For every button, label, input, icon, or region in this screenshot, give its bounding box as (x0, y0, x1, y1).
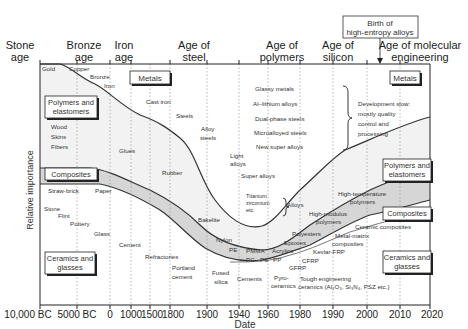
tick-1990: 1990 (322, 309, 345, 320)
tick-1960: 1960 (257, 309, 280, 320)
class-box-metals-right: Metals (390, 71, 422, 86)
label-flint: Flint (58, 212, 70, 219)
label-dev-1: Development slow: (358, 100, 411, 107)
label-copper: Copper (69, 65, 89, 72)
label-hm-poly-2: polymers (316, 218, 341, 225)
label-pmma: PMMA (246, 247, 265, 254)
tick-0: 0 (107, 309, 113, 320)
label-cements: Cements (237, 275, 262, 282)
age-polymers-2: polymers (260, 51, 305, 63)
label-light-alloys-1: Light (230, 152, 244, 159)
label-etc: etc. (246, 207, 255, 213)
label-epoxies: Epoxies (284, 239, 306, 246)
label-pottery: Pottery (70, 220, 91, 227)
label-dual-phase: Dual-phase steels (255, 115, 305, 122)
label-light-alloys-2: alloys (230, 160, 246, 167)
label-super-alloys: Super alloys (241, 172, 275, 179)
tick-10000bc: 10,000 BC (4, 309, 51, 320)
label-cement: Cement (119, 241, 141, 248)
label-glues: Glues (119, 147, 135, 154)
tick-2000: 2000 (356, 309, 379, 320)
label-paper: Paper (95, 187, 112, 194)
label-alloy-steels-2: steels (200, 134, 216, 141)
age-steel-2: steel (182, 51, 205, 63)
label-fused-2: silica (214, 278, 228, 285)
callout-arrow-head-icon (377, 58, 383, 64)
tick-5000bc: 5000 BC (58, 309, 97, 320)
label-refractories: Refractories (145, 253, 178, 260)
label-glass: Glass (94, 230, 110, 237)
y-axis-label: Relative importance (25, 150, 35, 230)
age-stone-2: age (11, 51, 29, 63)
label-ceramic-composites: Ceramic composites (355, 223, 411, 230)
label-kevlar: Kevlar-FRP (313, 248, 345, 255)
label-new-super: New super alloys (256, 143, 303, 150)
age-silicon-1: Age of (322, 39, 355, 51)
development-brace-icon (343, 86, 352, 150)
x-axis-label: Date (234, 319, 256, 329)
label-portland-1: Portland (172, 264, 196, 271)
label-ps: PS (260, 256, 268, 263)
svg-text:elastomers: elastomers (389, 170, 426, 179)
tick-1900: 1900 (196, 309, 219, 320)
label-gfrp: GFRP (289, 264, 306, 271)
label-acrylics: Acrylics (272, 247, 293, 254)
label-pc: PC (246, 256, 255, 263)
svg-text:Polymers and: Polymers and (48, 98, 94, 107)
label-ht-poly-2: polymers (350, 198, 375, 205)
label-cfrp: CFRP (302, 257, 319, 264)
age-silicon-2: silicon (323, 51, 354, 63)
callout-line1: Birth of (367, 19, 393, 28)
svg-text:glasses: glasses (57, 263, 83, 272)
materials-evolution-diagram: Stone age Bronze age Iron age Age of ste… (0, 0, 468, 329)
age-bronze-1: Bronze (67, 39, 102, 51)
svg-text:elastomers: elastomers (53, 107, 90, 116)
label-dev-2: mostly quality (358, 110, 396, 117)
label-dev-4: processing (358, 130, 388, 137)
label-polyesters: Polyesters (292, 230, 321, 237)
age-polymers-1: Age of (266, 39, 299, 51)
label-straw-brick: Straw-brick (48, 187, 80, 194)
age-iron-1: Iron (115, 39, 134, 51)
label-nylon: Nylon (216, 236, 232, 243)
tick-2020: 2020 (421, 309, 444, 320)
label-ht-poly-1: High-temperature (338, 190, 387, 197)
label-steels: Steels (176, 112, 193, 119)
label-pe: PE (229, 246, 237, 253)
label-zirconium: zirconium (246, 200, 270, 206)
label-pp: PP (273, 256, 281, 263)
label-iron: Iron (104, 82, 115, 89)
label-microalloyed: Microalloyed steels (254, 129, 307, 136)
label-fused-1: Fused (212, 269, 230, 276)
age-stone-1: Stone (6, 39, 35, 51)
label-bronze: Bronze (90, 73, 110, 80)
label-tough-1: Tough engineering (300, 275, 351, 282)
tick-1500: 1500 (141, 309, 164, 320)
label-portland-2: cement (172, 273, 193, 280)
label-bakelite: Bakelite (198, 216, 221, 223)
svg-text:Ceramics and: Ceramics and (384, 253, 430, 262)
tick-1980: 1980 (289, 309, 312, 320)
label-cast-iron: Cast iron (146, 98, 171, 105)
svg-text:Metals: Metals (138, 74, 162, 83)
age-bronze-2: age (75, 51, 93, 63)
label-stone: Stone (44, 205, 61, 212)
class-box-polymers-left: Polymers and elastomers (45, 96, 99, 120)
age-iron-2: age (115, 51, 133, 63)
class-box-ceramics-left: Ceramics and glasses (45, 252, 97, 276)
class-box-polymers-right: Polymers and elastomers (383, 159, 433, 183)
label-pyro-1: Pyro- (274, 274, 289, 281)
label-al-lithium: Al–lithium alloys (253, 100, 297, 107)
class-box-metals-left: Metals (130, 71, 172, 86)
callout-line2: high-entropy alloys (346, 28, 413, 37)
label-alloy-steels-1: Alloy (201, 125, 215, 132)
svg-text:Metals: Metals (393, 74, 417, 83)
label-mmc-1: Metal-matrix (335, 232, 370, 239)
label-titanium: Titanium (246, 193, 267, 199)
label-dev-3: control and (358, 120, 389, 127)
class-box-composites-right: Composites (383, 207, 433, 222)
label-glassy-metals: Glassy metals (255, 85, 294, 92)
age-molecular-2: engineering (391, 51, 449, 63)
label-wood: Wood (51, 123, 68, 130)
age-molecular-1: Age of molecular (379, 39, 462, 51)
